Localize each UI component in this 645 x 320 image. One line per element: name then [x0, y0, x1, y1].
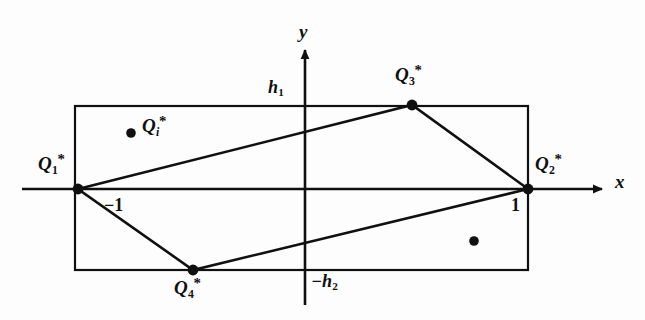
figure-container: y x h1 −h2 −1 1 Q1* Q3* Q2* Q4* Qi* [0, 0, 645, 320]
vertex-label-q1: Q1* [38, 152, 65, 176]
qi-base: Q [142, 115, 156, 136]
h1-base: h [268, 77, 278, 97]
q2-sub: 2 [549, 164, 555, 177]
q3-sub: 3 [409, 75, 415, 88]
vertex-label-q3: Q3* [395, 63, 422, 87]
q4-sup: * [194, 275, 201, 291]
qi-sup: * [159, 113, 166, 129]
q3-base: Q [395, 64, 409, 85]
minus-h2-sub: 2 [332, 280, 338, 292]
interior-point-label-qi: Qi* [142, 114, 166, 138]
vertex-label-q2: Q2* [535, 152, 562, 176]
x-tick-label-minus-one: −1 [104, 196, 123, 214]
q3-sup: * [415, 62, 422, 78]
q4-base: Q [174, 277, 188, 298]
q2-sup: * [555, 151, 562, 167]
minus-h2-base: h [322, 271, 332, 291]
q1-sup: * [58, 151, 65, 167]
vertex-dot-q3 [407, 100, 418, 111]
interior-point-qi-dot [126, 128, 136, 138]
q1-base: Q [38, 153, 52, 174]
y-tick-label-minus-h2: −h2 [311, 272, 338, 292]
q4-sub: 4 [188, 288, 194, 301]
x-tick-label-one: 1 [511, 196, 520, 214]
q1-sub: 1 [52, 164, 58, 177]
vertex-dot-q4 [188, 265, 199, 276]
vertex-label-q4: Q4* [174, 276, 201, 300]
vertex-dot-q2 [523, 184, 534, 195]
y-axis-label: y [299, 22, 307, 41]
q2-base: Q [535, 153, 549, 174]
x-axis-label: x [615, 172, 625, 191]
interior-point-unlabeled-dot [469, 236, 479, 246]
minus-h2-prefix: − [311, 271, 322, 291]
vertex-dot-q1 [73, 184, 84, 195]
h1-sub: 1 [278, 86, 284, 98]
y-tick-label-h1: h1 [268, 78, 284, 98]
